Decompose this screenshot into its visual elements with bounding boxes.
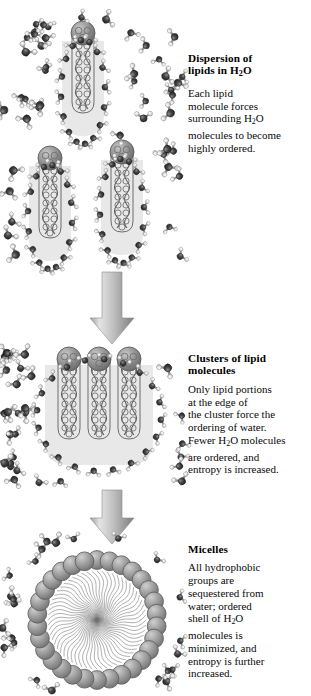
water-molecule (139, 36, 151, 54)
water-molecule (12, 359, 31, 376)
water-molecule (169, 644, 188, 662)
water-molecule (6, 243, 22, 265)
water-molecule (0, 618, 11, 637)
body-micelles: All hydrophobic groups are sequestered f… (188, 561, 306, 680)
water-molecule (15, 110, 37, 131)
water-molecule (0, 224, 20, 244)
body-dispersion: Each lipid molecule forces surrounding H… (188, 87, 306, 155)
water-molecule (4, 473, 24, 489)
figure-canvas: Dispersion of lipids in H2O Each lipid m… (0, 0, 311, 696)
water-molecule (52, 477, 68, 487)
water-molecule (160, 102, 177, 124)
water-molecule (13, 343, 35, 364)
water-molecule (86, 467, 102, 477)
textblock-dispersion: Dispersion of lipids in H2O Each lipid m… (188, 52, 306, 155)
water-molecule (173, 408, 189, 425)
water-molecule (100, 9, 115, 30)
textblock-clusters: Clusters of lipid molecules Only lipid p… (188, 352, 306, 476)
water-molecule (150, 551, 167, 568)
water-molecule (175, 589, 188, 606)
arrow-clusters-to-micelles-art (90, 490, 134, 544)
water-molecule (42, 682, 62, 696)
water-molecule (162, 222, 178, 234)
water-molecule (3, 161, 25, 183)
water-molecule (170, 166, 187, 185)
water-molecule (156, 359, 178, 380)
water-molecule (0, 185, 20, 201)
heading-clusters: Clusters of lipid molecules (188, 352, 306, 377)
water-molecule (31, 473, 50, 490)
water-molecule (174, 246, 190, 264)
panel-micelle-art (28, 551, 166, 690)
arrow-dispersion-to-clusters-art (90, 272, 134, 344)
water-molecule (139, 93, 149, 109)
water-molecule (134, 111, 152, 122)
heading-dispersion: Dispersion of lipids in H2O (188, 52, 306, 81)
heading-micelles: Micelles (188, 543, 306, 555)
water-molecule (0, 100, 9, 120)
water-molecule (65, 531, 82, 544)
body-clusters: Only lipid portions at the edge of the c… (188, 383, 306, 476)
water-molecule (27, 673, 44, 690)
water-molecule (155, 394, 167, 411)
water-molecule (167, 28, 179, 46)
water-molecule (105, 465, 122, 477)
water-molecule (0, 360, 12, 379)
water-molecule (1, 566, 15, 583)
water-molecule (157, 412, 167, 428)
water-molecule (31, 420, 43, 437)
water-molecule (151, 55, 167, 67)
water-molecule (122, 27, 141, 42)
textblock-micelles: Micelles All hydrophobic groups are sequ… (188, 543, 306, 680)
water-molecule (15, 41, 38, 61)
